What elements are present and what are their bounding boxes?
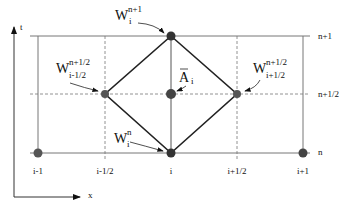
col-label-i: i <box>170 166 173 176</box>
label-w-left: W n+1/2 i-1/2 <box>56 57 98 91</box>
svg-text:i-1/2: i-1/2 <box>69 70 86 80</box>
node-center <box>166 89 176 99</box>
t-axis-label: t <box>20 22 23 32</box>
svg-text:n+1: n+1 <box>128 4 142 14</box>
label-w-right: W n+1/2 i+1/2 <box>245 57 287 91</box>
col-label-i-minus-1: i-1 <box>33 166 43 176</box>
svg-text:W: W <box>253 61 267 76</box>
svg-text:i: i <box>127 139 130 149</box>
node-i-minus-1 <box>34 149 43 158</box>
node-i-minus-half <box>101 90 109 98</box>
row-label-n: n <box>318 147 323 157</box>
staggered-grid-diagram: t x n+1 n+1/2 n i-1 i-1/2 i i+1/2 i+1 W … <box>0 0 353 205</box>
svg-text:i: i <box>191 76 194 86</box>
svg-text:i: i <box>129 16 132 26</box>
svg-text:W: W <box>56 61 70 76</box>
label-w-top: W n+1 i <box>115 4 164 33</box>
svg-text:n+1/2: n+1/2 <box>266 57 287 67</box>
col-label-i-plus-1: i+1 <box>297 166 309 176</box>
svg-text:i+1/2: i+1/2 <box>266 70 285 80</box>
x-axis-label: x <box>88 190 93 200</box>
node-i-plus-half <box>233 90 241 98</box>
node-i-n <box>167 149 176 158</box>
svg-text:n: n <box>127 127 132 137</box>
col-label-i-plus-half: i+1/2 <box>227 166 246 176</box>
svg-text:W: W <box>114 131 128 146</box>
svg-text:A: A <box>179 70 190 85</box>
col-label-i-minus-half: i-1/2 <box>97 166 114 176</box>
label-a-center: A i <box>177 69 194 91</box>
node-i-n-plus-1 <box>167 32 176 41</box>
svg-text:W: W <box>115 8 129 23</box>
node-i-plus-1 <box>299 149 308 158</box>
svg-text:n+1/2: n+1/2 <box>69 57 90 67</box>
row-label-n-plus-half: n+1/2 <box>318 89 339 99</box>
row-label-n-plus-1: n+1 <box>318 31 332 41</box>
